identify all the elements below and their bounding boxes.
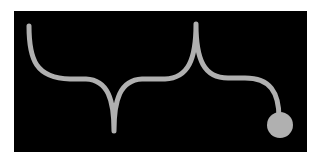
brace-curve [29, 24, 279, 131]
brace-diagram [0, 0, 319, 159]
end-dot-icon [267, 112, 293, 138]
